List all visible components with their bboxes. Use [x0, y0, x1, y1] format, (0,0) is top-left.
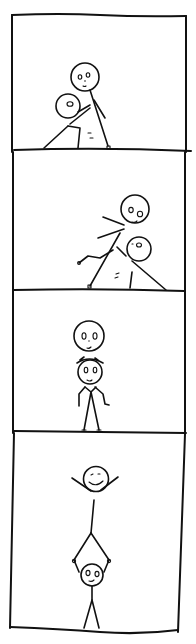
stick-figure-lower	[77, 357, 109, 430]
stick-figure-upper	[74, 321, 104, 351]
panel-frames	[10, 14, 191, 633]
stick-figure-bottom	[78, 237, 166, 290]
panel-1	[44, 63, 110, 149]
stick-figure-top	[88, 195, 149, 288]
comic-canvas	[0, 0, 196, 644]
comic-strip: Stick figure acrobatics comic	[0, 0, 196, 644]
stick-figure-crouching	[44, 94, 93, 148]
stick-figure-handstand	[72, 467, 118, 561]
panel-4	[72, 467, 118, 629]
stick-figure-base	[72, 559, 110, 628]
panel-2	[78, 195, 166, 290]
panel-3	[74, 321, 109, 430]
stick-figure-standing	[71, 63, 110, 149]
